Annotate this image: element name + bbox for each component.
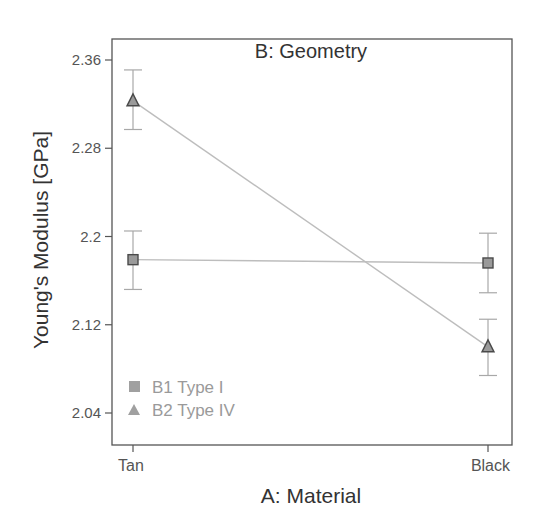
y-axis: 2.362.282.22.122.04 [72,51,112,421]
interaction-plot: 2.362.282.22.122.04 TanBlack B1 Type IB2… [0,0,540,524]
legend: B1 Type IB2 Type IV [128,378,236,420]
y-tick-label: 2.36 [72,51,101,68]
series-layer [124,70,497,376]
triangle-marker-icon [482,340,494,352]
y-tick-label: 2.04 [72,404,101,421]
series-line [133,101,488,347]
y-axis-title: Young's Modulus [GPa] [29,131,52,349]
square-marker-icon [128,255,138,265]
plot-title: B: Geometry [255,40,367,62]
legend-label: B1 Type I [152,378,224,397]
legend-item: B2 Type IV [128,401,236,420]
x-tick-label: Tan [118,457,144,474]
y-tick-label: 2.28 [72,139,101,156]
y-tick-label: 2.12 [72,316,101,333]
series-1 [124,231,497,293]
legend-square-icon [129,381,140,392]
legend-triangle-icon [128,404,140,415]
legend-label: B2 Type IV [152,401,236,420]
y-tick-label: 2.2 [80,228,101,245]
legend-item: B1 Type I [129,378,224,397]
series-line [133,260,488,263]
series-2 [124,70,497,376]
triangle-marker-icon [127,94,139,106]
x-tick-label: Black [471,457,511,474]
x-axis-title: A: Material [261,484,361,507]
x-axis: TanBlack [118,445,511,474]
square-marker-icon [483,258,493,268]
